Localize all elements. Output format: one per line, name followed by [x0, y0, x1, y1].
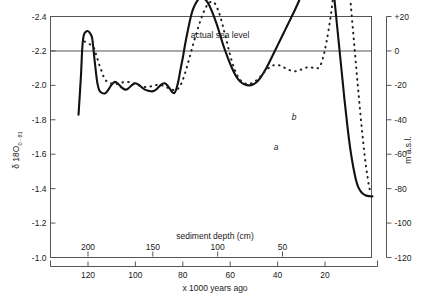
bottom-tick-label: 60: [225, 270, 235, 280]
right-tick-label: -20: [395, 80, 408, 90]
left-tick-label: -2.4: [32, 12, 47, 22]
top-tick-label: 150: [146, 242, 160, 252]
left-tick-label: -1.8: [32, 115, 47, 125]
top-axis-title: sediment depth (cm): [176, 231, 254, 241]
bottom-tick-label: 20: [320, 270, 330, 280]
bottom-axis-title: x 1000 years ago: [182, 283, 247, 293]
left-tick-label: -1.0: [32, 253, 47, 263]
figure-container: -2.4-2.2-2.0-1.8-1.6-1.4-1.2-1.0 +200-20…: [0, 0, 426, 300]
curve-a-label: a: [274, 142, 279, 152]
left-tick-label: -1.2: [32, 218, 47, 228]
left-tick-label: -2.2: [32, 46, 47, 56]
right-tick-label: +20: [395, 12, 410, 22]
bottom-tick-label: 120: [81, 270, 95, 280]
right-tick-label: -80: [395, 184, 408, 194]
curve-b-label: b: [292, 112, 297, 122]
left-axis-title-main: δ 18O: [11, 145, 21, 169]
left-tick-label: -2.0: [32, 80, 47, 90]
bottom-axis-ticks: 12010080604020: [51, 261, 378, 280]
left-tick-label: -1.4: [32, 184, 47, 194]
right-tick-label: -100: [395, 218, 412, 228]
annotation-actual-sea-level: actual sea level: [191, 30, 250, 40]
bottom-tick-label: 100: [128, 270, 142, 280]
right-tick-label: -40: [395, 115, 408, 125]
left-axis-title-sub: 0 - 81: [17, 131, 23, 145]
sea-level-isotope-chart: -2.4-2.2-2.0-1.8-1.6-1.4-1.2-1.0 +200-20…: [0, 0, 426, 300]
bottom-tick-label: 80: [178, 270, 188, 280]
top-tick-label: 200: [81, 242, 95, 252]
top-tick-label: 100: [211, 242, 225, 252]
top-axis-ticks: 20015010050: [81, 242, 288, 257]
right-axis-title: m a.s.l.: [403, 136, 413, 163]
left-axis-title: δ 18O0 - 81: [11, 131, 23, 168]
top-tick-label: 50: [278, 242, 288, 252]
bottom-tick-label: 40: [273, 270, 283, 280]
right-tick-label: -120: [395, 253, 412, 263]
right-tick-label: 0: [395, 46, 400, 56]
left-tick-label: -1.6: [32, 149, 47, 159]
left-axis-ticks: -2.4-2.2-2.0-1.8-1.6-1.4-1.2-1.0: [32, 12, 56, 263]
